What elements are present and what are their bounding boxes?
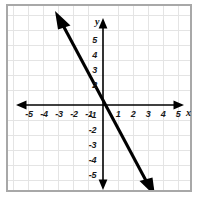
x-tick-label: -4 (38, 110, 50, 119)
y-tick-label: -4 (86, 156, 99, 165)
y-tick-label: -1 (86, 111, 99, 120)
y-axis-label: y (95, 17, 99, 27)
x-tick-label: 3 (144, 110, 152, 119)
y-tick-label: -5 (86, 171, 99, 180)
y-tick-label: 3 (90, 66, 99, 75)
y-tick-label: -2 (86, 126, 99, 135)
y-axis-up-arrowhead (99, 18, 108, 29)
grid-horizontal-lines (8, 16, 190, 181)
y-tick-label: 4 (90, 51, 99, 60)
x-tick-label: -5 (23, 110, 35, 119)
x-axis-label: x (186, 108, 191, 118)
y-tick-label: 5 (90, 36, 99, 45)
grid-group (8, 6, 190, 196)
line-upper-left-arrowhead (55, 11, 71, 30)
x-tick-label: 2 (129, 110, 137, 119)
x-tick-label: -2 (68, 110, 80, 119)
x-tick-label: 4 (159, 110, 167, 119)
x-tick-label: -3 (53, 110, 65, 119)
x-tick-label: 5 (174, 110, 182, 119)
y-axis-down-arrowhead (99, 180, 108, 191)
x-tick-label: 1 (114, 110, 122, 119)
y-tick-label: 2 (90, 81, 99, 90)
coordinate-plane-canvas (0, 0, 203, 205)
graph-figure: -5 -4 -3 -2 -1 1 2 3 4 5 5 4 3 2 -1 -2 -… (0, 0, 203, 205)
plotted-line-series (55, 11, 155, 196)
y-tick-label: -3 (86, 141, 99, 150)
